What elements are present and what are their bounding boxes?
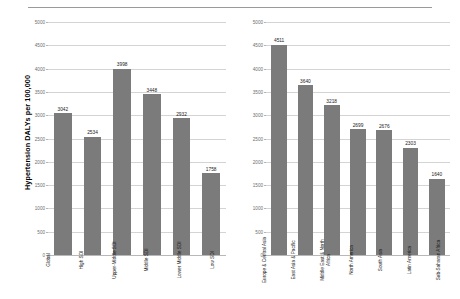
category-slot: Upper-Middle SDI — [95, 258, 128, 299]
bar-slot: 1640 — [424, 22, 450, 255]
category-slot: Global — [30, 258, 63, 299]
header-rule — [28, 7, 432, 8]
chart-figure: Hypertension DALYs per 100,000 050010001… — [0, 0, 460, 299]
category-slot: North America — [335, 258, 364, 299]
y-tick-label: 1000 — [35, 206, 45, 211]
y-tick-label: 4500 — [35, 43, 45, 48]
bar[interactable]: 3448 — [143, 94, 161, 255]
bar-slot: 3218 — [319, 22, 345, 255]
category-slot: Middle SDI — [128, 258, 161, 299]
bar-value-label: 2303 — [405, 141, 416, 146]
bar-group-left: 304225343998344829321758 — [48, 22, 226, 255]
x-category-label: Latin America — [407, 233, 413, 287]
category-slot: Low SDI — [193, 258, 226, 299]
bar-slot: 4511 — [266, 22, 292, 255]
bar[interactable]: 3640 — [298, 85, 314, 255]
bar-slot: 1758 — [196, 22, 226, 255]
bar-value-label: 2676 — [379, 124, 390, 129]
category-slot: South Asia — [363, 258, 392, 299]
y-tick-label: 2000 — [35, 159, 45, 164]
category-slot: Sub-Saharan Africa — [421, 258, 450, 299]
bar-slot: 2932 — [167, 22, 197, 255]
bar-slot: 3998 — [107, 22, 137, 255]
y-tick-label: 5000 — [253, 20, 263, 25]
category-slot: Europe & Central Asia — [248, 258, 277, 299]
bar-value-label: 2699 — [353, 123, 364, 128]
y-tick-label: 3500 — [35, 89, 45, 94]
gridline — [48, 255, 226, 256]
category-slot: Middle East & North Africa — [306, 258, 335, 299]
x-category-label: East Asia & Pacific — [291, 233, 297, 287]
y-tick-label: 1500 — [35, 183, 45, 188]
bar[interactable]: 4511 — [271, 45, 287, 255]
category-slot: High SDI — [63, 258, 96, 299]
x-category-label: Lower Middle SDI — [177, 233, 183, 287]
x-category-label: Middle East & North Africa — [320, 233, 331, 287]
bar-value-label: 3640 — [300, 79, 311, 84]
bar-group-right: 4511364032182699267623031640 — [266, 22, 450, 255]
bar-slot: 2303 — [397, 22, 423, 255]
y-tick-label: 3000 — [35, 113, 45, 118]
y-tick-label: 3500 — [253, 89, 263, 94]
category-axis-right: Europe & Central AsiaEast Asia & Pacific… — [248, 258, 450, 299]
bar-value-label: 3042 — [57, 107, 68, 112]
y-tick-label: 2500 — [253, 136, 263, 141]
y-tick-label: 500 — [37, 229, 45, 234]
x-category-label: Sub-Saharan Africa — [436, 233, 442, 287]
bar-value-label: 3218 — [326, 99, 337, 104]
y-tick-label: 4000 — [253, 66, 263, 71]
x-category-label: High SDI — [79, 233, 85, 287]
category-axis-left: GlobalHigh SDIUpper-Middle SDIMiddle SDI… — [30, 258, 226, 299]
category-slot: East Asia & Pacific — [277, 258, 306, 299]
category-slot: Lower Middle SDI — [161, 258, 194, 299]
category-slot: Latin America — [392, 258, 421, 299]
x-category-label: Upper-Middle SDI — [112, 233, 118, 287]
bar-slot: 2699 — [345, 22, 371, 255]
bar[interactable]: 3998 — [113, 69, 131, 255]
y-tick-label: 1500 — [253, 183, 263, 188]
bar-slot: 2534 — [78, 22, 108, 255]
y-tick-label: 4500 — [253, 43, 263, 48]
bar-value-label: 3448 — [147, 88, 158, 93]
plot-area-left: 0500100015002000250030003500400045005000… — [48, 22, 226, 255]
bar-slot: 3042 — [48, 22, 78, 255]
y-axis-title: Hypertension DALYs per 100,000 — [23, 38, 32, 228]
y-tick-label: 2500 — [35, 136, 45, 141]
bar-value-label: 1758 — [206, 167, 217, 172]
bar-value-label: 3998 — [117, 62, 128, 67]
bar-value-label: 2932 — [176, 112, 187, 117]
bar[interactable]: 3042 — [54, 113, 72, 255]
x-category-label: Low SDI — [210, 233, 216, 287]
x-category-label: Global — [46, 233, 52, 287]
bar-slot: 3448 — [137, 22, 167, 255]
y-tick-label: 3000 — [253, 113, 263, 118]
y-tick-label: 1000 — [253, 206, 263, 211]
x-category-label: Middle SDI — [144, 233, 150, 287]
y-tick-label: 4000 — [35, 66, 45, 71]
y-tick-label: 0 — [42, 253, 45, 258]
bar-value-label: 4511 — [274, 38, 284, 43]
plot-area-right: 0500100015002000250030003500400045005000… — [266, 22, 450, 255]
x-category-label: North America — [349, 233, 355, 287]
y-tick-label: 5000 — [35, 20, 45, 25]
y-tick-label: 2000 — [253, 159, 263, 164]
bar-value-label: 2534 — [87, 130, 98, 135]
bar[interactable]: 2534 — [84, 137, 102, 255]
x-category-label: South Asia — [378, 233, 384, 287]
x-category-label: Europe & Central Asia — [262, 233, 268, 287]
bar-slot: 2676 — [371, 22, 397, 255]
bar-value-label: 1640 — [431, 172, 442, 177]
bar-slot: 3640 — [292, 22, 318, 255]
